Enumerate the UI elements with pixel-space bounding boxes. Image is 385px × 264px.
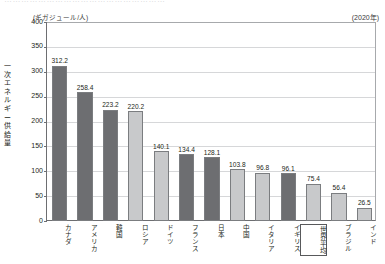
y-axis-tick-label: 200 xyxy=(31,117,43,124)
bar-イギリス[interactable] xyxy=(281,173,296,221)
bar-アメリカ[interactable] xyxy=(77,92,92,221)
bar-slot: 140.1 xyxy=(154,22,169,221)
y-axis-tick-label: 150 xyxy=(31,142,43,149)
bar-イタリア[interactable] xyxy=(255,173,270,221)
bar-value-label: 103.8 xyxy=(229,161,246,168)
bar-ロシア[interactable] xyxy=(128,111,143,221)
bar-value-label: 220.2 xyxy=(128,103,145,110)
bar-slot: 220.2 xyxy=(128,22,143,221)
year-annotation: (2020年) xyxy=(352,12,379,22)
y-axis-tick-label: 100 xyxy=(31,167,43,174)
y-axis-tick-label: 50 xyxy=(35,192,43,199)
bar-value-label: 75.4 xyxy=(307,175,320,182)
x-axis-label-ブラジル: ブラジル xyxy=(325,224,350,252)
y-axis-tick-label: 350 xyxy=(31,42,43,49)
y-axis-tick-mark xyxy=(44,221,47,222)
y-axis-title-char: 一 xyxy=(1,62,13,71)
x-axis-label-韓国: 韓国 xyxy=(97,224,122,238)
bar-slot: 128.1 xyxy=(204,22,219,221)
bar-value-label: 134.4 xyxy=(178,146,195,153)
bar-value-label: 96.8 xyxy=(256,164,269,171)
bar-インド[interactable] xyxy=(357,208,372,221)
x-axis-label-イタリア: イタリア xyxy=(249,224,274,252)
bar-slot: 312.2 xyxy=(52,22,67,221)
bar-slot: 223.2 xyxy=(103,22,118,221)
y-axis-title-char: 次 xyxy=(1,71,13,80)
x-axis-label-イギリス: イギリス xyxy=(274,224,299,252)
bar-slot: 96.1 xyxy=(281,22,296,221)
bar-value-label: 56.4 xyxy=(332,184,345,191)
y-axis-title-char: ー xyxy=(1,114,13,123)
x-axis-label-インド: インド xyxy=(351,224,376,245)
y-axis-title-char: エ xyxy=(1,79,13,88)
bar-slot: 258.4 xyxy=(77,22,92,221)
bar-韓国[interactable] xyxy=(103,110,118,221)
x-axis-label-世界平均: 世界平均 xyxy=(300,224,327,256)
bar-ブラジル[interactable] xyxy=(331,193,346,221)
bar-slot: 96.8 xyxy=(255,22,270,221)
y-axis-tick-labels: 050100150200250300350400 xyxy=(14,22,43,221)
x-axis-label-ロシア: ロシア xyxy=(122,224,147,245)
x-axis-label-日本: 日本 xyxy=(198,224,223,238)
x-axis-label-中国: 中国 xyxy=(224,224,249,238)
y-axis-title-char: ギ xyxy=(1,105,13,114)
x-axis-label-フランス: フランス xyxy=(173,224,198,252)
y-axis-title-char: ル xyxy=(1,96,13,105)
bars-layer: 312.2258.4223.2220.2140.1134.4128.1103.8… xyxy=(46,22,376,221)
bar-value-label: 26.5 xyxy=(358,199,371,206)
y-axis-tick-label: 400 xyxy=(31,18,43,25)
bar-ドイツ[interactable] xyxy=(154,151,169,221)
y-axis-title-char: ネ xyxy=(1,88,13,97)
bar-value-label: 128.1 xyxy=(204,149,221,156)
x-axis-label-ドイツ: ドイツ xyxy=(148,224,173,245)
y-axis-title: 一次エネルギー供給量 xyxy=(1,62,13,148)
bar-slot: 134.4 xyxy=(179,22,194,221)
y-axis-tick-label: 0 xyxy=(39,217,43,224)
y-axis-title-char: 給 xyxy=(1,131,13,140)
bar-slot: 56.4 xyxy=(331,22,346,221)
bar-slot: 103.8 xyxy=(230,22,245,221)
y-axis-tick-label: 300 xyxy=(31,67,43,74)
bar-value-label: 96.1 xyxy=(282,165,295,172)
bar-value-label: 223.2 xyxy=(102,101,119,108)
x-axis-category-labels: カナダアメリカ韓国ロシアドイツフランス日本中国イタリアイギリス世界平均ブラジルイ… xyxy=(46,224,376,264)
bar-value-label: 312.2 xyxy=(51,57,68,64)
bar-カナダ[interactable] xyxy=(52,66,67,221)
x-axis-label-カナダ: カナダ xyxy=(46,224,71,245)
y-axis-title-char: 量 xyxy=(1,139,13,148)
bar-フランス[interactable] xyxy=(179,154,194,221)
bar-世界平均[interactable] xyxy=(306,184,321,222)
bar-slot: 75.4 xyxy=(306,22,321,221)
bar-日本[interactable] xyxy=(204,157,219,221)
y-axis-tick-label: 250 xyxy=(31,92,43,99)
bar-value-label: 140.1 xyxy=(153,143,170,150)
y-axis-title-char: 供 xyxy=(1,122,13,131)
bar-slot: 26.5 xyxy=(357,22,372,221)
bar-value-label: 258.4 xyxy=(77,84,94,91)
bar-中国[interactable] xyxy=(230,169,245,221)
x-axis-label-アメリカ: アメリカ xyxy=(71,224,96,252)
bar-chart: (ギガジュール/人) (2020年) 一次エネルギー供給量 0501001502… xyxy=(0,0,385,264)
